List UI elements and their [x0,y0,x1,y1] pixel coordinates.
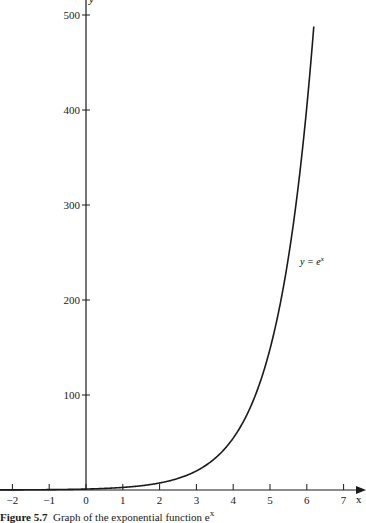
x-tick-label: 7 [341,494,347,506]
x-axis-label: x [356,493,362,505]
figure-caption: Figure 5.7 Graph of the exponential func… [0,508,214,523]
y-tick-label: 500 [64,9,81,21]
axes: −2−101234567100200300400500 [0,0,366,506]
x-tick-label: 5 [267,494,273,506]
y-tick-label: 200 [64,294,81,306]
caption-text: Graph of the exponential function e [53,511,210,523]
exp-curve [0,27,314,490]
x-tick-label: 2 [157,494,163,506]
y-tick-label: 400 [64,104,81,116]
x-tick-label: 1 [120,494,126,506]
caption-prefix: Figure 5.7 [0,511,47,523]
y-tick-label: 300 [64,199,81,211]
x-tick-label: 3 [194,494,200,506]
y-axis-label: y [88,0,94,5]
x-tick-label: 6 [304,494,310,506]
x-tick-label: 0 [83,494,89,506]
caption-sup: x [210,508,215,518]
curve-label: y = ex [299,255,325,267]
x-tick-label: −1 [43,494,55,506]
y-tick-label: 100 [64,389,81,401]
x-tick-label: 4 [230,494,236,506]
x-tick-label: −2 [7,494,19,506]
